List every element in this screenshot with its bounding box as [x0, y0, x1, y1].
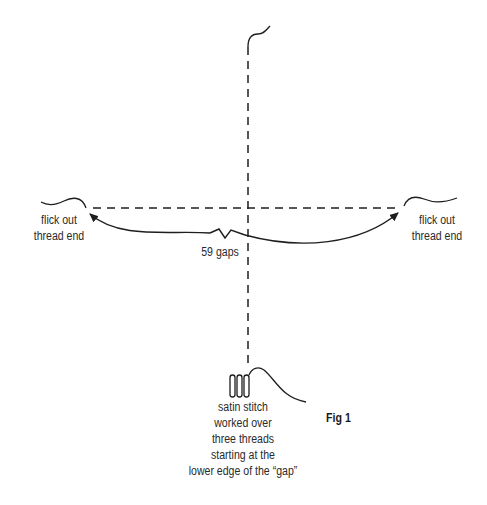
- right-thread-end-label: flick out thread end: [404, 212, 469, 244]
- label-line: flick out: [404, 212, 469, 228]
- label-line: three threads: [188, 431, 299, 447]
- top-thread-tail: [248, 26, 270, 47]
- right-thread-end-wave: [404, 197, 457, 206]
- label-line: lower edge of the “gap”: [188, 463, 299, 479]
- label-line: 59 gaps: [194, 244, 247, 260]
- left-thread-end-label: flick out thread end: [26, 212, 91, 244]
- label-line: flick out: [26, 212, 91, 228]
- label-line: thread end: [404, 228, 469, 244]
- satin-stitch-icon: [230, 375, 249, 397]
- bottom-thread-tail: [249, 368, 306, 402]
- label-line: satin stitch: [188, 399, 299, 415]
- arc-right-arrow: [245, 213, 398, 243]
- figure-caption: Fig 1: [326, 411, 351, 425]
- label-line: thread end: [26, 228, 91, 244]
- label-line: worked over: [188, 415, 299, 431]
- label-line: starting at the: [188, 447, 299, 463]
- gap-zigzag: [210, 229, 245, 238]
- satin-stitch-note: satin stitch worked over three threads s…: [188, 399, 299, 479]
- arc-left-arrow: [90, 214, 210, 233]
- gap-count-label: 59 gaps: [194, 244, 247, 260]
- left-thread-end-wave: [41, 198, 86, 208]
